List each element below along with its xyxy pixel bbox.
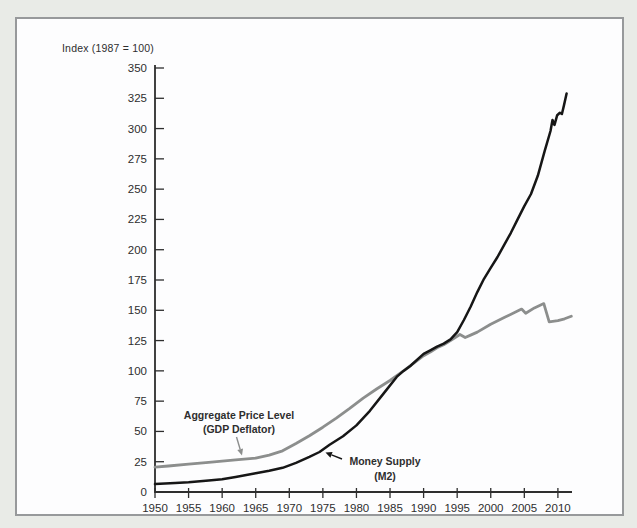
m2-label-text: Money Supply bbox=[349, 455, 420, 467]
x-tick-label: 1980 bbox=[344, 502, 370, 514]
y-tick-label: 100 bbox=[128, 365, 147, 377]
x-tick-label: 1995 bbox=[444, 502, 470, 514]
y-tick-label: 225 bbox=[128, 213, 147, 225]
x-tick-label: 1970 bbox=[277, 502, 303, 514]
series-line-price-level bbox=[155, 304, 571, 468]
x-tick-label: 1965 bbox=[243, 502, 269, 514]
m2-label-text: (M2) bbox=[374, 470, 396, 482]
y-tick-label: 50 bbox=[134, 425, 147, 437]
m2-label-arrow bbox=[332, 455, 342, 459]
price-level-label-arrowhead bbox=[237, 448, 243, 455]
x-tick-label: 1985 bbox=[377, 502, 403, 514]
y-tick-label: 200 bbox=[128, 244, 147, 256]
x-tick-label: 1955 bbox=[176, 502, 202, 514]
price-level-label-text: Aggregate Price Level bbox=[184, 409, 294, 421]
price-level-label-text: (GDP Deflator) bbox=[203, 423, 275, 435]
m2-label-arrowhead bbox=[326, 452, 333, 458]
x-tick-label: 1950 bbox=[142, 502, 168, 514]
x-tick-label: 1990 bbox=[411, 502, 437, 514]
y-tick-label: 350 bbox=[128, 62, 147, 74]
y-tick-label: 275 bbox=[128, 153, 147, 165]
x-tick-label: 1960 bbox=[209, 502, 235, 514]
y-tick-label: 75 bbox=[134, 395, 147, 407]
y-tick-label: 150 bbox=[128, 304, 147, 316]
x-tick-label: 2010 bbox=[545, 502, 571, 514]
x-tick-label: 2000 bbox=[478, 502, 504, 514]
y-tick-label: 125 bbox=[128, 335, 147, 347]
y-tick-label: 300 bbox=[128, 123, 147, 135]
y-tick-label: 25 bbox=[134, 456, 147, 468]
y-tick-label: 175 bbox=[128, 274, 147, 286]
price-level-label-arrow bbox=[237, 437, 241, 449]
chart-canvas: 0255075100125150175200225250275300325350… bbox=[0, 0, 637, 528]
y-tick-label: 325 bbox=[128, 92, 147, 104]
x-tick-label: 2005 bbox=[512, 502, 538, 514]
x-tick-label: 1975 bbox=[310, 502, 336, 514]
y-tick-label: 250 bbox=[128, 183, 147, 195]
y-tick-label: 0 bbox=[141, 486, 147, 498]
